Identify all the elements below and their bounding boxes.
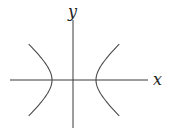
hyperbola-diagram: y x (0, 0, 173, 130)
y-axis-label: y (67, 2, 78, 21)
x-axis-label: x (153, 70, 162, 89)
